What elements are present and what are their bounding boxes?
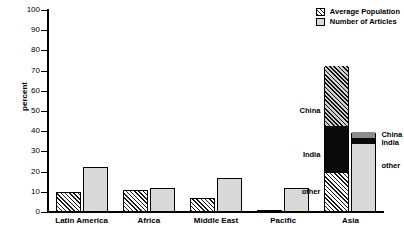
x-axis-label-asia: Asia bbox=[305, 216, 395, 225]
y-tick-mark bbox=[41, 50, 48, 51]
bar-segment-india bbox=[352, 138, 375, 144]
annotation-right-india: India bbox=[381, 139, 404, 147]
y-tick-label: 20 bbox=[16, 168, 40, 176]
legend-label-average-population: Average Population bbox=[330, 8, 400, 16]
legend-swatch-light bbox=[316, 18, 325, 26]
annotation-left-india: India bbox=[282, 151, 320, 159]
legend-item-number-of-articles: Number of Articles bbox=[316, 18, 400, 26]
y-tick-label: 90 bbox=[16, 26, 40, 34]
y-tick-label: 60 bbox=[16, 87, 40, 95]
plot-area bbox=[48, 10, 384, 212]
y-tick-mark bbox=[41, 111, 48, 112]
y-tick-label-wrap: 20 bbox=[0, 168, 40, 176]
annotation-right-other: other bbox=[381, 162, 404, 170]
y-tick-label: 70 bbox=[16, 67, 40, 75]
stacked-bar bbox=[351, 133, 376, 212]
annotation-left-other: other bbox=[282, 188, 320, 196]
y-tick-label-wrap: 90 bbox=[0, 26, 40, 34]
y-tick-mark bbox=[41, 192, 48, 193]
y-tick-mark bbox=[41, 10, 48, 11]
bar-segment-other bbox=[325, 173, 348, 211]
y-tick-label-wrap: 0 bbox=[0, 208, 40, 216]
y-tick-label: 10 bbox=[16, 188, 40, 196]
bar bbox=[150, 188, 175, 212]
y-tick-label-wrap: 100 bbox=[0, 6, 40, 14]
y-tick-label-wrap: 50 bbox=[0, 107, 40, 115]
bar-segment-other bbox=[352, 144, 375, 211]
y-tick-mark bbox=[41, 212, 48, 213]
y-tick-label: 80 bbox=[16, 46, 40, 54]
y-tick-label: 30 bbox=[16, 147, 40, 155]
legend-label-number-of-articles: Number of Articles bbox=[330, 18, 397, 26]
y-tick-label-wrap: 40 bbox=[0, 127, 40, 135]
annotation-left-china: China bbox=[282, 107, 320, 115]
bar-segment-china bbox=[352, 132, 375, 138]
legend: Average Population Number of Articles bbox=[316, 8, 400, 28]
y-tick-mark bbox=[41, 30, 48, 31]
y-tick-label: 100 bbox=[16, 6, 40, 14]
bar-chart: percent 0102030405060708090100 Latin Ame… bbox=[0, 0, 404, 245]
bar bbox=[190, 198, 215, 212]
y-tick-mark bbox=[41, 131, 48, 132]
bar bbox=[56, 192, 81, 212]
y-tick-label-wrap: 80 bbox=[0, 46, 40, 54]
y-tick-label-wrap: 70 bbox=[0, 67, 40, 75]
bar bbox=[123, 190, 148, 212]
legend-swatch-hatched bbox=[316, 8, 325, 16]
legend-item-average-population: Average Population bbox=[316, 8, 400, 16]
bar bbox=[257, 210, 282, 212]
y-tick-label: 50 bbox=[16, 107, 40, 115]
bar-segment-india bbox=[325, 126, 348, 172]
bar bbox=[217, 178, 242, 212]
y-tick-mark bbox=[41, 172, 48, 173]
bar bbox=[83, 167, 108, 212]
y-tick-mark bbox=[41, 151, 48, 152]
y-tick-label-wrap: 60 bbox=[0, 87, 40, 95]
y-tick-mark bbox=[41, 71, 48, 72]
y-tick-label-wrap: 30 bbox=[0, 147, 40, 155]
y-tick-label: 40 bbox=[16, 127, 40, 135]
y-tick-mark bbox=[41, 91, 48, 92]
bar-segment-china bbox=[325, 66, 348, 127]
y-tick-label-wrap: 10 bbox=[0, 188, 40, 196]
y-axis-title: percent bbox=[20, 67, 29, 127]
y-tick-label: 0 bbox=[16, 208, 40, 216]
stacked-bar bbox=[324, 67, 349, 212]
